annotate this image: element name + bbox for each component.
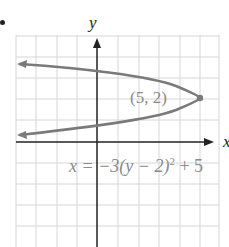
- y-axis-arrow-icon: [93, 38, 101, 48]
- vertex-point: [197, 95, 203, 101]
- x-axis-label: x: [223, 132, 229, 152]
- vertex-label: (5, 2): [130, 88, 167, 108]
- equation-main: x = −3(y − 2): [69, 156, 169, 176]
- x-axis-arrow-icon: [204, 138, 214, 146]
- y-axis-label: y: [89, 13, 97, 33]
- equation-tail: + 5: [175, 156, 203, 176]
- equation-label: x = −3(y − 2)2 + 5: [69, 155, 203, 177]
- curve-arrow-bottom-icon: [17, 131, 27, 139]
- axes: [16, 46, 206, 247]
- curve-arrow-top-icon: [17, 60, 27, 68]
- graph-canvas: [0, 0, 229, 247]
